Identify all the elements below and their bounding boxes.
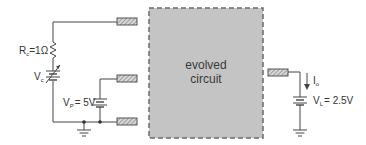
- battery-vl-icon: [293, 97, 307, 105]
- terminal-pad-bottom: [117, 118, 137, 125]
- junction-dot: [82, 120, 86, 124]
- evolved-circuit-block: evolved circuit: [149, 8, 263, 138]
- block-label-line1: evolved: [185, 58, 226, 72]
- ground-icon: [293, 130, 307, 136]
- resistor-rc-icon: [50, 42, 56, 58]
- circuit-diagram: evolved circuit: [0, 0, 366, 145]
- terminal-pad-middle: [117, 75, 137, 82]
- current-arrow-io-icon: [304, 73, 310, 90]
- terminal-pad-top: [117, 18, 137, 25]
- label-vl: VL= 2.5V: [313, 95, 354, 107]
- junction-dot: [98, 120, 102, 124]
- ground-icon: [77, 130, 91, 136]
- label-rc: Rc=1Ω: [19, 45, 49, 57]
- terminal-pad-output: [268, 69, 288, 76]
- label-io: Io: [313, 75, 320, 87]
- left-wires: [53, 22, 117, 130]
- label-vc: Vc: [34, 71, 44, 83]
- block-label-line2: circuit: [190, 72, 222, 86]
- label-vp: VP= 5V: [63, 97, 96, 109]
- right-wires: [288, 72, 300, 130]
